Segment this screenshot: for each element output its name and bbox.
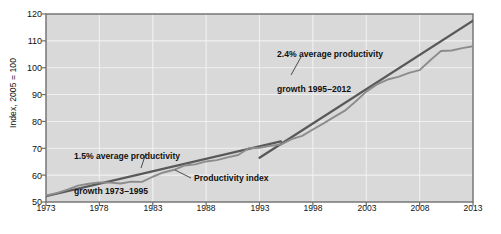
annotation-line-2: growth 1973–1995 bbox=[74, 186, 180, 198]
x-tick-label: 2003 bbox=[347, 204, 387, 213]
productivity-index-chart: Index, 2005 = 100 120 110 100 90 80 70 6… bbox=[0, 0, 501, 234]
x-tick-label: 1993 bbox=[240, 204, 280, 213]
annotation-growth-1995-2012: 2.4% average productivity growth 1995–20… bbox=[277, 26, 383, 119]
x-tick-label: 1983 bbox=[133, 204, 173, 213]
x-tick-label: 2008 bbox=[400, 204, 440, 213]
annotation-line-1: 1.5% average productivity bbox=[74, 151, 180, 163]
x-axis-tick-labels: 1973 1978 1983 1988 1993 1998 2003 2008 … bbox=[0, 204, 501, 224]
x-tick-label: 2013 bbox=[453, 204, 493, 213]
annotation-line-1: 2.4% average productivity bbox=[277, 49, 383, 61]
x-tick-label: 1978 bbox=[79, 204, 119, 213]
annotation-series-label: Productivity index bbox=[194, 173, 269, 183]
annotation-line-2: growth 1995–2012 bbox=[277, 84, 383, 96]
x-tick-label: 1988 bbox=[186, 204, 226, 213]
x-tick-label: 1998 bbox=[293, 204, 333, 213]
x-tick-label: 1973 bbox=[26, 204, 66, 213]
